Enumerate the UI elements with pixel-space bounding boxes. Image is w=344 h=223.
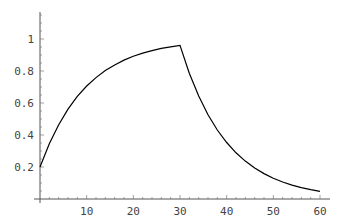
y-tick-label: 0.4 [14, 129, 34, 142]
line-chart: 1020304050600.20.40.60.81 [0, 0, 344, 223]
x-tick-label: 10 [80, 205, 93, 218]
tick-marks [40, 15, 320, 199]
y-tick-label: 1 [27, 33, 34, 46]
x-tick-label: 40 [220, 205, 233, 218]
x-tick-label: 60 [313, 205, 326, 218]
tick-labels: 1020304050600.20.40.60.81 [14, 33, 327, 218]
x-tick-label: 30 [173, 205, 186, 218]
axes [34, 12, 330, 203]
y-tick-label: 0.2 [14, 161, 34, 174]
y-tick-label: 0.8 [14, 65, 34, 78]
x-tick-label: 20 [127, 205, 140, 218]
y-tick-label: 0.6 [14, 97, 34, 110]
data-curve [40, 45, 320, 191]
x-tick-label: 50 [267, 205, 280, 218]
